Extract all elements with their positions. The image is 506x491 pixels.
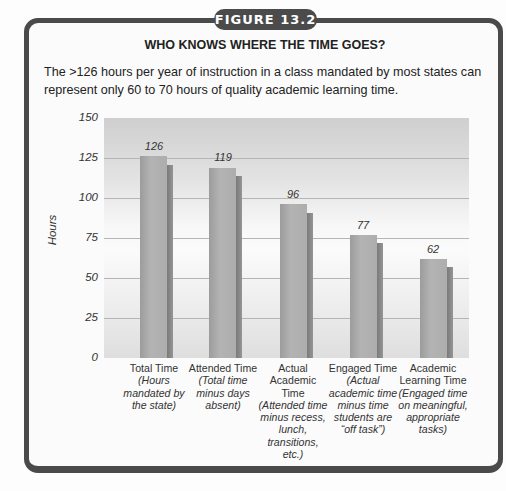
category-note: (Hours mandated by the state) [119,374,189,411]
bar-shadow [307,213,313,358]
bar-shadow [447,267,453,358]
bar-shadow [236,176,242,358]
category-note: (Actual academic time minus time student… [328,374,398,435]
category-name: Actual Academic Time [270,362,317,399]
figure-badge: FIGURE 13.2 [214,9,317,30]
category-name: Attended Time [189,362,257,374]
y-axis-label: Hours [46,215,58,246]
bar-value-label: 126 [134,140,174,152]
y-tick-50: 50 [64,271,98,283]
category-label-total-time: Total Time (Hours mandated by the state) [119,362,189,411]
bar-academic-learning-time [420,259,447,358]
bar-value-label: 119 [203,151,243,163]
category-label-actual-academic-time: Actual Academic Time (Attended time minu… [258,362,328,460]
bar-total-time [140,156,167,358]
y-tick-25: 25 [64,311,98,323]
figure-description: The >126 hours per year of instruction i… [44,63,494,99]
y-tick-100: 100 [64,191,98,203]
category-label-academic-learning-time: Academic Learning Time (Engaged time on … [398,362,468,436]
category-name: Academic Learning Time [399,362,466,386]
bar-actual-academic-time [280,204,307,358]
category-note: (Engaged time on meaningful, appropriate… [398,387,468,436]
bar-value-label: 96 [273,188,313,200]
y-tick-0: 0 [64,351,98,363]
category-name: Total Time [130,362,178,374]
bar-attended-time [209,168,236,358]
bar-shadow [377,243,383,358]
bar-value-label: 62 [413,243,453,255]
figure-title: WHO KNOWS WHERE THE TIME GOES? [30,38,500,52]
bar-engaged-time [350,235,377,358]
y-tick-75: 75 [64,231,98,243]
category-label-engaged-time: Engaged Time (Actual academic time minus… [328,362,398,436]
y-tick-125: 125 [64,151,98,163]
bar-value-label: 77 [343,219,383,231]
category-name: Engaged Time [329,362,397,374]
bar-shadow [167,165,173,358]
category-note: (Attended time minus recess, lunch, tran… [258,399,328,460]
category-note: (Total time minus days absent) [188,374,258,411]
y-tick-150: 150 [64,111,98,123]
category-label-attended-time: Attended Time (Total time minus days abs… [188,362,258,411]
